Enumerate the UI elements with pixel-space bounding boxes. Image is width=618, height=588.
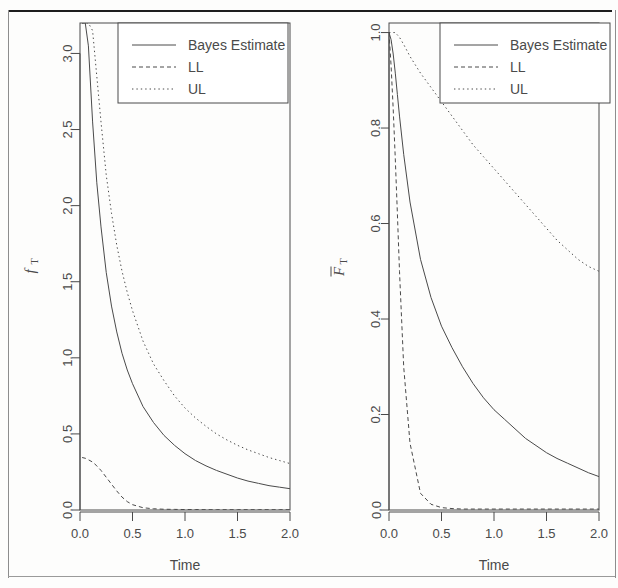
y-axis-title-subscript: T xyxy=(29,258,40,264)
y-axis-tick-label: 1.0 xyxy=(60,349,75,367)
y-axis-tick-label: 2.5 xyxy=(60,120,75,138)
x-axis-tick-label: 1.5 xyxy=(537,526,555,541)
y-axis-tick-label: 1.0 xyxy=(369,24,384,42)
y-axis-tick-label: 0.4 xyxy=(369,310,384,328)
x-axis-tick-label: 1.0 xyxy=(485,526,503,541)
scanned-figure-page: 0.00.51.01.52.02.53.00.00.51.01.52.0Time… xyxy=(0,0,618,588)
x-axis-tick-label: 2.0 xyxy=(590,526,608,541)
chart-panel-left: 0.00.51.01.52.02.53.00.00.51.01.52.0Time… xyxy=(0,0,309,588)
legend: Bayes EstimateLLUL xyxy=(118,23,288,103)
legend-label: UL xyxy=(188,81,206,97)
legend-label: LL xyxy=(188,59,204,75)
y-axis-tick-label: 0.2 xyxy=(369,405,384,423)
x-axis-tick-label: 0.0 xyxy=(71,526,89,541)
y-axis-title-subscript: T xyxy=(338,258,349,264)
y-axis-title: fT xyxy=(22,258,40,273)
y-axis-tick-label: 2.0 xyxy=(60,197,75,215)
x-axis-tick-label: 1.5 xyxy=(228,526,246,541)
legend-label: UL xyxy=(510,81,528,97)
plot-svg: 0.00.20.40.60.81.00.00.51.01.52.0TimeFTB… xyxy=(309,0,618,588)
legend-label: Bayes Estimate xyxy=(510,37,607,53)
y-axis-title: FT xyxy=(331,258,349,277)
x-axis-tick-label: 0.5 xyxy=(123,526,141,541)
legend-label: Bayes Estimate xyxy=(188,37,285,53)
x-axis-tick-label: 1.0 xyxy=(176,526,194,541)
y-axis-title-symbol: F xyxy=(331,266,347,277)
x-axis-tick-label: 0.0 xyxy=(380,526,398,541)
x-axis-title: Time xyxy=(170,557,201,573)
plot-svg: 0.00.51.01.52.02.53.00.00.51.01.52.0Time… xyxy=(0,0,309,588)
x-axis-title: Time xyxy=(479,557,510,573)
x-axis-tick-label: 0.5 xyxy=(432,526,450,541)
y-axis-tick-label: 0.5 xyxy=(60,425,75,443)
series-line-dashed xyxy=(389,33,599,510)
y-axis-title-symbol: f xyxy=(22,268,38,274)
x-axis-tick-label: 2.0 xyxy=(281,526,299,541)
y-axis-tick-label: 0.6 xyxy=(369,214,384,232)
legend-label: LL xyxy=(510,59,526,75)
y-axis-tick-label: 3.0 xyxy=(60,44,75,62)
y-axis-tick-label: 0.0 xyxy=(369,501,384,519)
chart-panel-right: 0.00.20.40.60.81.00.00.51.01.52.0TimeFTB… xyxy=(309,0,618,588)
series-group xyxy=(389,33,599,510)
y-axis-tick-label: 1.5 xyxy=(60,273,75,291)
y-axis-tick-label: 0.8 xyxy=(369,119,384,137)
legend: Bayes EstimateLLUL xyxy=(440,23,610,103)
y-axis-tick-label: 0.0 xyxy=(60,501,75,519)
